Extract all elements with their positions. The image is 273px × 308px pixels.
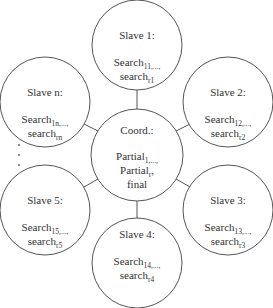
connector-slave-2 [176, 124, 190, 131]
connector-slave-5 [84, 179, 98, 187]
slave-1-title: Slave 1: [119, 29, 155, 41]
master-slave-diagram: Slave 1: Search11,..., searchr1 Slave 2:… [0, 0, 273, 308]
coordinator-title: Coord.: [120, 124, 153, 136]
connector-slave-n [84, 124, 98, 131]
slave-5-title: Slave 5: [27, 194, 63, 206]
slave-n-title: Slave n: [27, 86, 63, 98]
slave-3-title: Slave 3: [210, 194, 246, 206]
slave-2-title: Slave 2: [210, 86, 246, 98]
ellipsis-dots [18, 144, 20, 166]
slave-4-title: Slave 4: [119, 228, 155, 240]
connector-slave-3 [176, 179, 190, 187]
coordinator-final: final [127, 178, 147, 190]
